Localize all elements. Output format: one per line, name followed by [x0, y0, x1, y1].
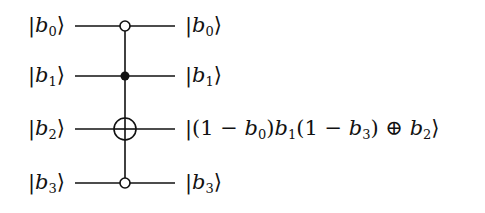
input-label-b3: |b3⟩ — [28, 172, 65, 195]
output-label-b3: |b3⟩ — [185, 172, 222, 195]
filled-control-icon-b1 — [121, 72, 130, 81]
output-label-b2-target: |(1 − b0)b1(1 − b3) ⊕ b2⟩ — [185, 118, 440, 141]
output-label-b0: |b0⟩ — [185, 15, 222, 38]
open-control-icon-b0 — [120, 21, 130, 31]
target-xor-icon-b2 — [114, 118, 136, 140]
circuit-diagram — [0, 0, 485, 213]
output-label-b1: |b1⟩ — [185, 65, 222, 88]
input-label-b1: |b1⟩ — [28, 65, 65, 88]
open-control-icon-b3 — [120, 178, 130, 188]
input-label-b0: |b0⟩ — [28, 15, 65, 38]
input-label-b2: |b2⟩ — [28, 118, 65, 141]
